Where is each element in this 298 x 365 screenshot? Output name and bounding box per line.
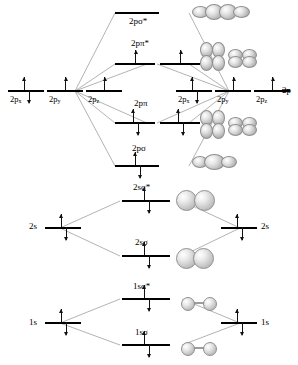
level-2p-pi-a xyxy=(115,122,155,124)
label-2p-pi-star: 2pπ* xyxy=(131,39,149,48)
level-1s-sigma-star xyxy=(122,298,170,300)
orbital-picture-2p-pi-star-a xyxy=(200,42,224,70)
label-left-2s: 2s xyxy=(29,222,37,231)
level-1s-sigma xyxy=(122,344,170,346)
orbital-picture-2p-pi-a xyxy=(200,110,224,138)
label-right-1s: 1s xyxy=(261,318,269,327)
level-2p-pi-b xyxy=(160,122,200,124)
orbital-picture-2p-sigma-star xyxy=(192,3,248,19)
orbital-picture-2p-sigma xyxy=(192,153,240,169)
label-right-2s: 2s xyxy=(261,222,269,231)
orbital-picture-1s-sigma-star xyxy=(181,297,217,311)
level-left-2s xyxy=(45,227,81,229)
level-2p-pi-star-b xyxy=(160,63,200,65)
level-left-1s xyxy=(45,322,81,324)
level-2s-sigma xyxy=(122,255,170,257)
level-right-2s xyxy=(221,227,257,229)
level-2s-sigma-star xyxy=(122,200,170,202)
label-left-1s: 1s xyxy=(29,318,37,327)
orbital-picture-1s-sigma xyxy=(181,342,217,356)
level-2p-pi-star-a xyxy=(115,63,155,65)
mo-energy-diagram: 2px 2py 2pz 2px 2py 2pz 2p 2pσ* xyxy=(0,0,298,365)
orbital-picture-2s-sigma-star xyxy=(176,190,216,210)
level-2p-sigma-star xyxy=(115,12,159,14)
orbital-picture-2s-sigma xyxy=(176,248,216,268)
orbital-picture-2p-pi-b xyxy=(228,116,258,134)
label-2p-pi: 2pπ xyxy=(134,99,148,108)
label-2p-sigma-star: 2pσ* xyxy=(129,17,147,26)
level-2p-sigma xyxy=(115,165,159,167)
orbital-picture-2p-pi-star-b xyxy=(228,48,258,66)
level-right-1s xyxy=(221,322,257,324)
